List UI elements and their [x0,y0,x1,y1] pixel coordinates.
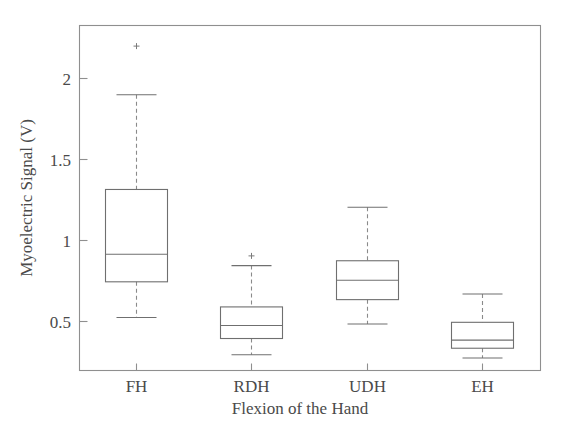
boxplot-eh [452,294,514,358]
x-tick-label-eh: EH [471,377,494,396]
x-tick-label-rdh: RDH [234,377,270,396]
plot-frame [80,26,541,371]
boxplot-series [106,43,514,358]
outlier-fh-0 [134,43,140,49]
y-tick-label-0.5: 0.5 [50,313,71,332]
y-axis-ticks [80,79,88,322]
boxplot-fh [106,43,168,317]
boxplot-figure: 2 1.5 1 0.5 Myoelectric Signal (V) FH RD… [0,0,561,435]
box-rdh [221,307,283,339]
x-axis-title: Flexion of the Hand [232,399,369,418]
outlier-rdh-0 [249,253,255,259]
y-tick-label-1: 1 [63,232,72,251]
boxplot-rdh [221,253,283,355]
x-tick-label-fh: FH [126,377,148,396]
box-eh [452,322,514,348]
y-tick-label-1.5: 1.5 [50,151,71,170]
chart-canvas: 2 1.5 1 0.5 Myoelectric Signal (V) FH RD… [0,0,561,435]
y-tick-label-2: 2 [63,70,72,89]
boxplot-udh [337,207,399,324]
y-axis-title: Myoelectric Signal (V) [17,119,36,277]
x-axis-ticks [137,364,483,371]
x-tick-label-udh: UDH [349,377,386,396]
box-fh [106,189,168,281]
